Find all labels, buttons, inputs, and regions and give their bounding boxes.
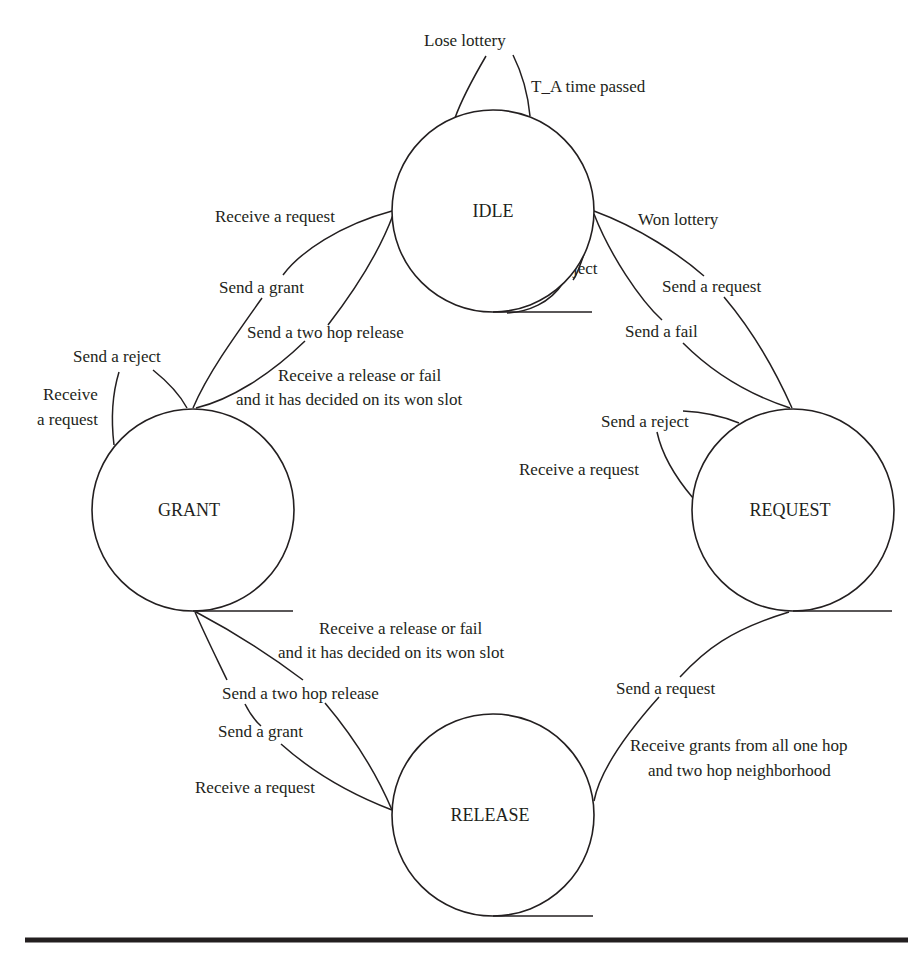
label-send-grant-top: Send a grant bbox=[219, 278, 304, 297]
edge-request-send-reject bbox=[683, 411, 739, 423]
edge-idle-to-request-send bbox=[724, 297, 792, 408]
state-release: RELEASE bbox=[392, 714, 594, 916]
label-lose-lottery: Lose lottery bbox=[424, 31, 506, 50]
state-request-label: REQUEST bbox=[750, 500, 831, 520]
label-send-request-bottom: Send a request bbox=[616, 679, 715, 698]
label-receive-release-bottom-1: Receive a release or fail bbox=[319, 619, 483, 638]
label-send-fail: Send a fail bbox=[625, 322, 698, 341]
label-receive-request-bottom: Receive a request bbox=[195, 778, 315, 797]
label-grant-send-reject: Send a reject bbox=[73, 347, 161, 366]
label-send-request-top: Send a request bbox=[662, 277, 761, 296]
label-grant-receive-1: Receive bbox=[43, 385, 98, 404]
label-receive-request-top: Receive a request bbox=[215, 207, 335, 226]
label-ta-time-passed: T_A time passed bbox=[531, 77, 646, 96]
label-won-lottery: Won lottery bbox=[638, 210, 719, 229]
state-grant: GRANT bbox=[92, 409, 294, 611]
edge-grant-receive-request bbox=[112, 372, 119, 445]
label-receive-release-bottom-2: and it has decided on its won slot bbox=[278, 643, 504, 662]
edge-request-to-idle-fail-tail bbox=[683, 343, 790, 408]
edge-release-to-grant-twohop bbox=[195, 612, 227, 680]
label-request-receive-request: Receive a request bbox=[519, 460, 639, 479]
label-receive-grants-2: and two hop neighborhood bbox=[648, 761, 831, 780]
label-send-grant-bottom: Send a grant bbox=[218, 722, 303, 741]
label-grant-receive-2: a request bbox=[37, 410, 98, 429]
state-request: REQUEST bbox=[692, 409, 894, 611]
edge-request-to-idle-fail bbox=[594, 214, 662, 320]
label-receive-grants-1: Receive grants from all one hop bbox=[630, 736, 848, 755]
state-idle-label: IDLE bbox=[473, 201, 514, 221]
edge-release-twohop-to-node bbox=[325, 703, 392, 810]
state-idle: IDLE bbox=[392, 110, 594, 312]
label-request-send-reject: Send a reject bbox=[601, 412, 689, 431]
edge-idle-lose-lottery bbox=[455, 56, 486, 118]
label-send-two-hop-release-bottom: Send a two hop release bbox=[222, 684, 379, 703]
label-receive-release-top-2: and it has decided on its won slot bbox=[236, 390, 462, 409]
state-diagram: Lose lottery T_A time passed Receive a r… bbox=[0, 0, 923, 962]
edge-request-receive-request bbox=[657, 432, 693, 498]
edge-request-to-release-send bbox=[680, 612, 789, 677]
label-send-two-hop-release-top: Send a two hop release bbox=[247, 323, 404, 342]
edge-idle-ta-time-passed bbox=[513, 55, 530, 116]
state-release-label: RELEASE bbox=[451, 805, 530, 825]
state-grant-label: GRANT bbox=[158, 500, 220, 520]
edge-grant-send-reject bbox=[153, 370, 187, 408]
label-receive-release-top-1: Receive a release or fail bbox=[278, 366, 442, 385]
